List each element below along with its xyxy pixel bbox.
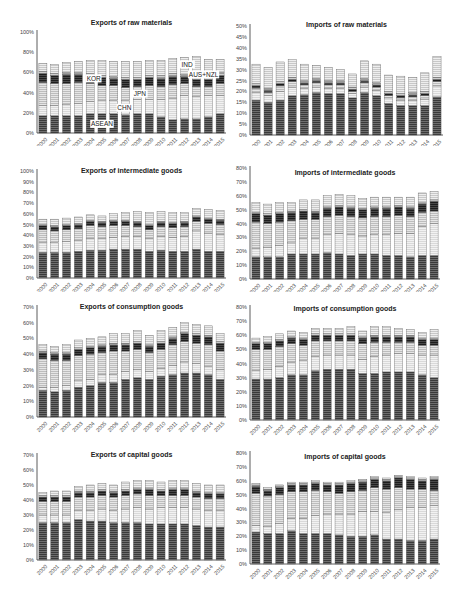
y-tick-label: 35%	[236, 56, 247, 62]
segment-ind	[86, 491, 94, 493]
segment-chn	[409, 100, 417, 105]
y-tick-label: 70%	[236, 318, 247, 324]
segment-aus-nzl	[110, 334, 118, 343]
segment-kor	[110, 345, 118, 351]
segment-jpn	[110, 226, 118, 238]
segment-jpn	[181, 496, 189, 508]
x-tick-label: 2008	[345, 138, 358, 146]
segment-kor	[192, 493, 200, 498]
segment-chn	[192, 97, 200, 119]
segment-jpn	[86, 226, 94, 239]
segment-ind	[204, 493, 212, 495]
segment-asean	[324, 94, 332, 135]
segment-jpn	[276, 495, 284, 524]
segment-chn	[383, 235, 391, 256]
segment-asean	[157, 117, 165, 133]
bar-2011	[169, 58, 177, 133]
segment-kor	[276, 84, 284, 86]
segment-jpn	[169, 228, 177, 238]
segment-ind	[288, 484, 296, 485]
x-tick-label: 2006	[321, 138, 334, 146]
x-tick-label: 2007	[332, 423, 345, 436]
segment-aus-nzl	[323, 196, 331, 207]
y-tick-label: 10%	[236, 110, 247, 116]
segment-chn	[394, 233, 402, 255]
segment-ind	[299, 338, 307, 339]
segment-chn	[299, 518, 307, 533]
x-tick-label: 2015	[430, 138, 443, 146]
segment-kor	[359, 210, 367, 218]
y-tick-label: 60%	[23, 320, 34, 326]
segment-aus-nzl	[421, 73, 429, 92]
x-tick-label: 2003	[71, 420, 84, 433]
y-tick-label: 70%	[23, 452, 34, 458]
bar-2014	[204, 485, 212, 560]
segment-kor	[347, 208, 355, 216]
bar-2008	[133, 331, 141, 417]
y-tick-label: 70%	[236, 464, 247, 470]
segment-aus-nzl	[288, 331, 296, 337]
x-tick-label: 2012	[393, 138, 406, 146]
bar-2009	[360, 61, 368, 135]
segment-jpn	[264, 496, 272, 527]
segment-ind	[98, 490, 106, 492]
bar-2010	[157, 331, 165, 417]
bar-2010	[371, 327, 379, 420]
segment-aus-nzl	[39, 219, 47, 224]
segment-jpn	[335, 341, 343, 355]
segment-jpn	[252, 222, 260, 248]
segment-asean	[264, 257, 272, 279]
segment-jpn	[348, 91, 356, 93]
segment-ind	[406, 207, 414, 208]
segment-chn	[421, 99, 429, 106]
y-tick-label: 0%	[26, 557, 34, 563]
y-tick-label: 40%	[236, 361, 247, 367]
segment-aus-nzl	[276, 62, 284, 82]
segment-jpn	[418, 212, 426, 226]
segment-chn	[192, 231, 200, 249]
segment-ind	[323, 334, 331, 335]
segment-asean	[204, 375, 212, 417]
segment-chn	[264, 96, 272, 103]
segment-ind	[122, 490, 130, 492]
segment-aus-nzl	[276, 334, 284, 340]
bar-2007	[122, 213, 130, 278]
segment-jpn	[204, 345, 212, 367]
segment-chn	[335, 514, 343, 535]
bar-2005	[311, 200, 319, 279]
segment-chn	[133, 508, 141, 523]
chart-imports-consumption-goods: Imports of consumption goods0%10%20%30%4…	[228, 292, 457, 440]
bar-2000	[39, 63, 47, 133]
chart-title: Imports of capital goods	[304, 453, 385, 461]
segment-asean	[204, 527, 212, 560]
segment-aus-nzl	[216, 211, 224, 220]
segment-ind	[51, 496, 59, 498]
chart-title: Exports of capital goods	[91, 451, 173, 459]
segment-aus-nzl	[145, 335, 153, 344]
segment-chn	[433, 86, 441, 97]
segment-chn	[133, 100, 141, 114]
segment-jpn	[51, 231, 59, 243]
x-tick-label: 2012	[391, 567, 404, 580]
y-tick-label: 30%	[236, 67, 247, 73]
segment-ind	[276, 82, 284, 84]
bar-2014	[418, 478, 426, 564]
segment-chn	[74, 241, 82, 252]
segment-kor	[133, 79, 141, 86]
bar-2014	[204, 326, 212, 417]
y-tick-label: 20%	[23, 110, 34, 116]
y-tick-label: 40%	[23, 351, 34, 357]
segment-ind	[430, 338, 438, 339]
bar-2007	[336, 70, 344, 135]
segment-asean	[110, 523, 118, 561]
chart-svg: Imports of intermediate goods0%10%20%30%…	[228, 146, 457, 292]
segment-asean	[110, 382, 118, 417]
y-tick-label: 60%	[23, 69, 34, 75]
bar-2012	[394, 197, 402, 279]
x-tick-label: 2009	[142, 563, 155, 576]
segment-aus-nzl	[373, 64, 381, 83]
segment-kor	[323, 485, 331, 492]
segment-jpn	[264, 224, 272, 248]
segment-chn	[39, 387, 47, 390]
segment-jpn	[347, 217, 355, 235]
